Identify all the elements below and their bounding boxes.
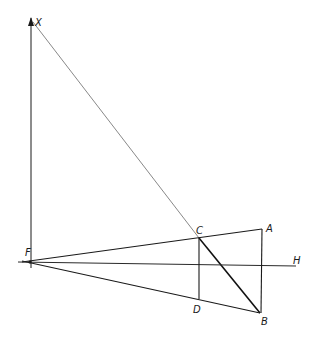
label-c: C <box>196 225 203 236</box>
arrowhead-x-icon <box>28 17 34 26</box>
line-f-to-h <box>18 262 296 266</box>
label-h: H <box>293 255 301 266</box>
label-f: F <box>25 247 31 258</box>
label-a: A <box>265 223 273 234</box>
label-b: B <box>261 316 268 327</box>
label-d: D <box>193 304 201 315</box>
line-a-to-b <box>261 229 262 313</box>
perspective-diagram: X F C A H D B <box>0 0 322 347</box>
line-f-to-a <box>22 229 262 262</box>
label-x: X <box>34 17 43 28</box>
line-x-to-c <box>33 22 199 238</box>
point-f <box>28 260 31 263</box>
